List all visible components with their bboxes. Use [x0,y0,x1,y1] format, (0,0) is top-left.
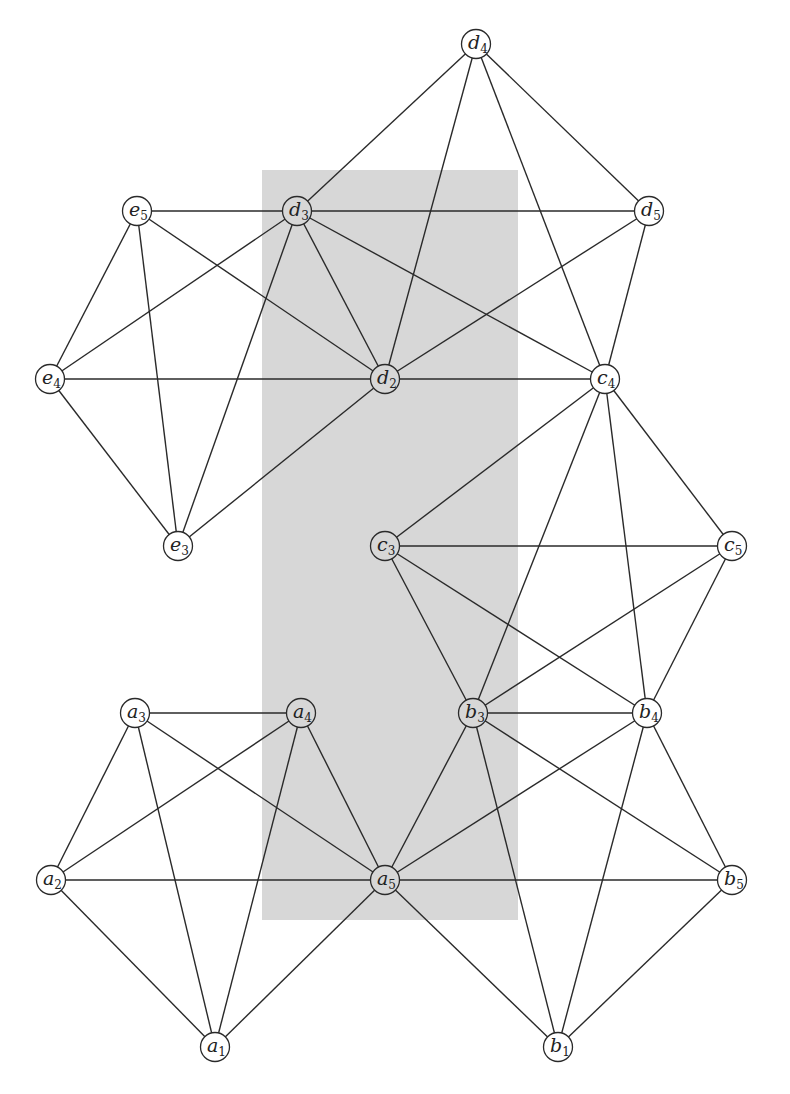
node-e5: e5 [123,197,152,226]
node-c4: c4 [591,365,620,394]
edge-b4-b5 [647,713,732,880]
edge-a3-a2 [51,713,135,880]
node-d3: d3 [283,197,312,226]
node-d2: d2 [371,365,400,394]
node-a2: a2 [37,866,66,895]
node-e4: e4 [36,365,65,394]
node-a5: a5 [371,866,400,895]
edge-b5-b1 [558,880,732,1047]
node-d4: d4 [462,30,491,59]
node-d5: d5 [635,197,664,226]
edge-d5-c4 [605,211,649,379]
node-b3: b3 [459,699,488,728]
node-a4: a4 [287,699,316,728]
node-c5: c5 [718,532,747,561]
node-b5: b5 [718,866,747,895]
edge-a2-a1 [51,880,215,1047]
node-e3: e3 [164,532,193,561]
edge-e5-e4 [50,211,137,379]
graph-diagram: d4e5d3d5e4d2c4e3c3c5a3a4b3b4a2a5b5a1b1 [0,0,790,1094]
edge-e4-e3 [50,379,178,546]
node-c3: c3 [371,532,400,561]
node-b4: b4 [633,699,662,728]
node-b1: b1 [544,1033,573,1062]
node-a1: a1 [201,1033,230,1062]
edge-c4-c5 [605,379,732,546]
node-a3: a3 [121,699,150,728]
edge-c5-b4 [647,546,732,713]
